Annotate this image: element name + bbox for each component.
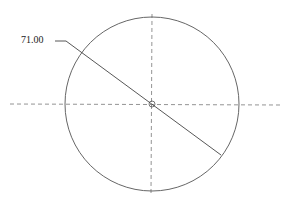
diameter-dimension-label: 71.00 bbox=[21, 34, 44, 45]
diameter-dimension-line bbox=[55, 41, 221, 155]
cad-drawing: 71.00 bbox=[0, 0, 287, 207]
horizontal-centerline bbox=[10, 104, 280, 105]
circle-drawing bbox=[0, 0, 287, 207]
